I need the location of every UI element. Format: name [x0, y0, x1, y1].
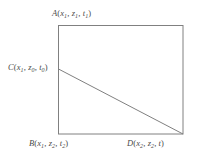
coord-x-sub-A: 1 [64, 13, 67, 19]
paren-close-A: ) [88, 8, 91, 18]
vertex-label-D: D(x2, z2, t) [127, 139, 164, 148]
bounding-rectangle [59, 26, 184, 135]
coord-t-sub-A: 1 [85, 13, 88, 19]
paren-close-C: ) [45, 62, 48, 72]
diagonal-segment-CD [59, 69, 184, 134]
figure-canvas: A(x1, z1, t1) C(x1, z0, t0) B(x1, z2, t2… [0, 0, 201, 162]
coord-x-C: x [17, 62, 21, 72]
coord-z-sub-D: 2 [151, 143, 154, 149]
coord-z-sub-B: 2 [52, 143, 55, 149]
coord-x-sub-D: 2 [140, 143, 143, 149]
coord-t-sub-C: 0 [42, 67, 45, 73]
coord-x-sub-B: 1 [41, 143, 44, 149]
vertex-label-C: C(x1, z0, t0) [8, 63, 48, 72]
coord-t-sub-B: 2 [62, 143, 65, 149]
coord-z-sub-C: 0 [32, 67, 35, 73]
coord-x-sub-C: 1 [21, 67, 24, 73]
vertex-label-A: A(x1, z1, t1) [52, 9, 91, 18]
vertex-label-B: B(x1, z2, t2) [29, 139, 68, 148]
coord-z-sub-A: 1 [75, 13, 78, 19]
paren-close-B: ) [65, 138, 68, 148]
paren-close-D: ) [161, 138, 164, 148]
